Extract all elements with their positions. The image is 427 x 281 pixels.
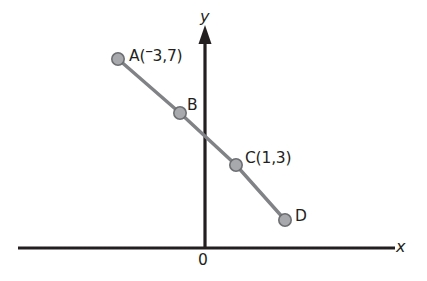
point-label-b: B: [187, 98, 197, 114]
y-axis-label: y: [200, 9, 209, 25]
point-label-a-suffix: 3,7): [153, 47, 183, 65]
graph-canvas: [0, 0, 427, 281]
point-label-d: D: [295, 209, 307, 225]
line-segment-abcd: [118, 59, 285, 220]
x-axis-label: x: [396, 239, 405, 255]
point-marker-a: [112, 53, 124, 65]
point-marker-d: [279, 214, 291, 226]
origin-label: 0: [198, 253, 208, 269]
point-label-a-prefix: A(: [129, 47, 145, 65]
point-label-a-negative-sign: –: [145, 42, 152, 60]
point-marker-c: [230, 159, 242, 171]
point-marker-b: [174, 107, 186, 119]
point-label-c: C(1,3): [245, 151, 291, 167]
y-axis-arrowhead-icon: [199, 25, 212, 44]
coordinate-plane-figure: A(–3,7) B C(1,3) D y x 0: [0, 0, 427, 281]
point-label-a: A(–3,7): [129, 44, 182, 64]
